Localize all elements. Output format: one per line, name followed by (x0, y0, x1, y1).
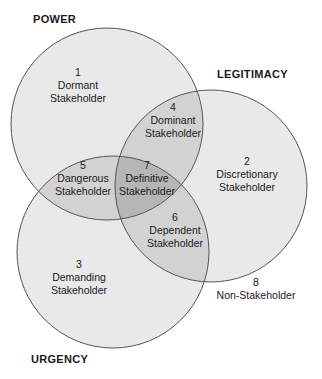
region-label-4-dominant-stakeholder: 4 Dominant Stakeholder (145, 101, 201, 139)
region-label-2-discretionary-stakeholder: 2 Discretionary Stakeholder (216, 155, 277, 193)
region-6-name: Dependent (147, 224, 203, 237)
region-5-name: Dangerous (55, 172, 111, 185)
region-7-suffix: Stakeholder (119, 185, 175, 198)
set-label-legitimacy: LEGITIMACY (217, 69, 288, 80)
region-label-5-dangerous-stakeholder: 5 Dangerous Stakeholder (55, 159, 111, 197)
region-label-1-dormant-stakeholder: 1 Dormant Stakeholder (50, 66, 106, 104)
region-label-8-non-stakeholder: 8 Non-Stakeholder (217, 276, 296, 302)
region-1-number: 1 (50, 66, 106, 79)
set-label-urgency: URGENCY (31, 354, 88, 365)
region-4-name: Dominant (145, 114, 201, 127)
region-2-number: 2 (216, 155, 277, 168)
region-3-suffix: Stakeholder (51, 284, 107, 297)
region-6-number: 6 (147, 211, 203, 224)
region-8-number: 8 (217, 276, 296, 289)
region-label-7-definitive-stakeholder: 7 Definitive Stakeholder (119, 159, 175, 197)
set-label-power: POWER (33, 14, 76, 25)
region-8-name: Non-Stakeholder (217, 289, 296, 302)
region-3-number: 3 (51, 258, 107, 271)
region-2-name: Discretionary (216, 168, 277, 181)
region-label-6-dependent-stakeholder: 6 Dependent Stakeholder (147, 211, 203, 249)
region-5-number: 5 (55, 159, 111, 172)
region-5-suffix: Stakeholder (55, 185, 111, 198)
region-4-number: 4 (145, 101, 201, 114)
region-7-name: Definitive (119, 172, 175, 185)
venn-diagram-figure: POWER LEGITIMACY URGENCY 1 Dormant Stake… (0, 0, 322, 379)
region-6-suffix: Stakeholder (147, 237, 203, 250)
region-7-number: 7 (119, 159, 175, 172)
region-3-name: Demanding (51, 271, 107, 284)
region-1-suffix: Stakeholder (50, 92, 106, 105)
region-1-name: Dormant (50, 79, 106, 92)
region-4-suffix: Stakeholder (145, 127, 201, 140)
region-2-suffix: Stakeholder (216, 181, 277, 194)
region-label-3-demanding-stakeholder: 3 Demanding Stakeholder (51, 258, 107, 296)
